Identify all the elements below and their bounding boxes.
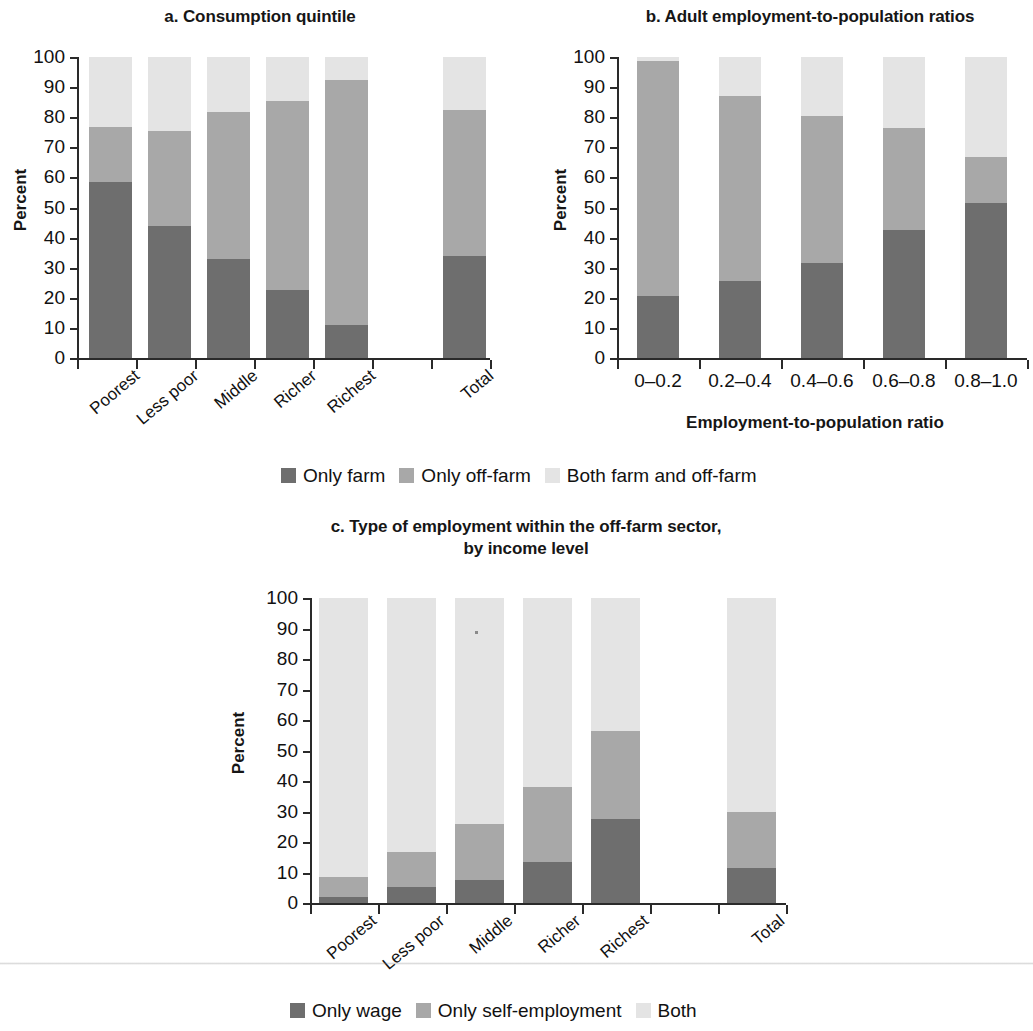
y-axis-tick-label: 40	[248, 771, 298, 790]
stacked-bar	[883, 57, 925, 358]
stacked-bar	[523, 598, 572, 903]
x-axis-tick	[313, 360, 315, 369]
y-axis-tick-label: 50	[555, 198, 605, 217]
y-axis-tick	[610, 87, 617, 89]
x-axis-tick	[378, 905, 380, 914]
stacked-bar	[443, 57, 486, 358]
stacked-bar	[591, 598, 640, 903]
y-axis-tick	[303, 873, 310, 875]
y-axis-tick-label: 90	[555, 77, 605, 96]
bar-segment	[207, 259, 250, 358]
x-axis-line	[617, 358, 1027, 360]
stacked-bar	[89, 57, 132, 358]
bar-segment	[455, 598, 504, 824]
bar-segment	[719, 281, 761, 358]
bar-segment	[266, 101, 309, 291]
y-axis-tick-label: 20	[15, 288, 65, 307]
stacked-bar	[207, 57, 250, 358]
y-axis-tick-label: 30	[248, 802, 298, 821]
x-axis-tick	[650, 905, 652, 914]
y-axis-tick	[610, 117, 617, 119]
bar-segment	[443, 110, 486, 255]
bar-segment	[266, 57, 309, 101]
y-axis-tick	[70, 358, 77, 360]
stacked-bar	[637, 57, 679, 358]
bar-segment	[965, 203, 1007, 358]
bar-segment	[523, 598, 572, 787]
bar-segment	[523, 787, 572, 863]
legend-label: Both farm and off-farm	[567, 466, 757, 485]
y-axis-tick	[303, 629, 310, 631]
panel-c-title-line-2: by income level	[246, 538, 806, 559]
y-axis-tick	[303, 781, 310, 783]
legend-swatch-icon	[281, 468, 296, 483]
y-axis-tick	[303, 842, 310, 844]
y-axis-tick	[70, 147, 77, 149]
y-axis-tick	[610, 358, 617, 360]
y-axis-tick	[70, 268, 77, 270]
y-axis-line	[617, 57, 619, 360]
bar-segment	[965, 57, 1007, 157]
y-axis-tick	[303, 812, 310, 814]
bar-segment	[455, 880, 504, 903]
stacked-bar	[801, 57, 843, 358]
legend-swatch-icon	[399, 468, 414, 483]
y-axis-tick-label: 0	[15, 348, 65, 367]
stacked-bar	[965, 57, 1007, 358]
bar-segment	[89, 57, 132, 127]
y-axis-tick	[70, 177, 77, 179]
legend-c-item: Only self-employment	[416, 1001, 622, 1020]
y-axis-tick	[70, 87, 77, 89]
y-axis-tick-label: 10	[15, 318, 65, 337]
x-axis-tick	[582, 905, 584, 914]
y-axis-tick-label: 30	[15, 258, 65, 277]
y-axis-tick	[303, 690, 310, 692]
y-axis-tick-label: 50	[248, 741, 298, 760]
x-axis-tick	[77, 360, 79, 369]
x-axis-line	[77, 358, 490, 360]
x-axis-tick	[781, 360, 783, 369]
bar-segment	[148, 131, 191, 225]
y-axis-tick-label: 100	[248, 588, 298, 607]
bar-segment	[148, 57, 191, 131]
stacked-bar	[727, 598, 776, 903]
x-axis-tick	[617, 360, 619, 369]
y-axis-tick-label: 90	[248, 619, 298, 638]
bar-segment	[319, 897, 368, 903]
y-axis-tick-label: 10	[248, 863, 298, 882]
y-axis-tick-label: 60	[555, 167, 605, 186]
y-axis-tick-label: 40	[555, 228, 605, 247]
bar-segment	[325, 57, 368, 80]
bar-segment	[727, 868, 776, 903]
legend-ab-item: Both farm and off-farm	[545, 466, 757, 485]
bar-segment	[455, 824, 504, 880]
bar-segment	[319, 877, 368, 897]
y-axis-tick	[70, 117, 77, 119]
x-axis-tick	[431, 360, 433, 369]
y-axis-tick-label: 30	[555, 258, 605, 277]
stacked-bar	[148, 57, 191, 358]
bar-segment	[387, 887, 436, 903]
legend-c-item: Both	[636, 1001, 697, 1020]
panel-b-x-axis-title: Employment-to-population ratio	[600, 413, 1030, 433]
legend-swatch-icon	[636, 1003, 651, 1018]
y-axis-tick	[70, 238, 77, 240]
x-axis-tick	[1027, 360, 1029, 369]
y-axis-tick-label: 80	[555, 107, 605, 126]
bar-segment	[319, 598, 368, 877]
legend-label: Only farm	[303, 466, 385, 485]
y-axis-tick	[610, 268, 617, 270]
x-axis-tick	[372, 360, 374, 369]
y-axis-tick	[303, 598, 310, 600]
legend-label: Only wage	[312, 1001, 402, 1020]
y-axis-tick	[610, 147, 617, 149]
bar-segment	[443, 256, 486, 358]
stacked-bar	[455, 598, 504, 903]
y-axis-tick-label: 90	[15, 77, 65, 96]
bar-segment	[883, 128, 925, 229]
bar-segment	[207, 112, 250, 259]
x-axis-line	[310, 903, 786, 905]
panel-a-title: a. Consumption quintile	[60, 6, 460, 27]
stacked-bar	[325, 57, 368, 358]
bar-segment	[719, 96, 761, 280]
